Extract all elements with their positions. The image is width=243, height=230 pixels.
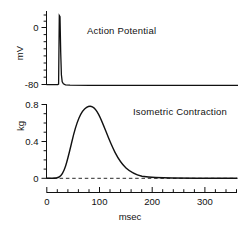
top-ytick-label-minus80: -80 [25,79,39,90]
xtick-label-0: 0 [44,196,49,207]
bottom-y-axis-title: kg [15,121,26,131]
xtick-label-200: 200 [144,196,160,207]
top-y-axis-title: mV [14,45,25,60]
action-potential-title: Action Potential [87,25,156,36]
panel-action-potential: 0 -80 mV Action Potential [14,11,238,90]
x-axis-title: msec [119,211,142,222]
xtick-label-300: 300 [197,196,213,207]
bottom-ytick-label-0: 0 [33,173,38,184]
bottom-ytick-label-04: 0.4 [25,136,38,147]
xtick-label-100: 100 [92,196,108,207]
panel-isometric-contraction: 0.8 0.4 0 kg Isometric Contraction [15,99,237,222]
figure-container: 0 -80 mV Action Potential [0,0,243,230]
dual-panel-physiology-chart: 0 -80 mV Action Potential [0,0,243,230]
bottom-ytick-label-08: 0.8 [25,99,38,110]
isometric-contraction-trace [47,106,237,178]
isometric-contraction-title: Isometric Contraction [133,106,227,117]
xticks-major [47,187,205,193]
top-ytick-label-0: 0 [33,22,38,33]
